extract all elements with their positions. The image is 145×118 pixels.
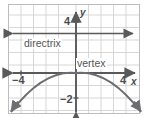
x-tick-label-4: 4 [120,75,126,86]
parabola-graph-figure: 4 y −2 −4 4 x directrix vertex [0,0,145,118]
plot-border [9,5,140,114]
y-tick-label-neg2: −2 [60,94,73,105]
x-axis-name: x [131,77,137,87]
y-tick-label-4: 4 [64,16,70,27]
x-tick-label-neg4: −4 [12,75,25,86]
vertex-label: vertex [76,58,107,69]
directrix-label: directrix [23,38,62,49]
y-axis-name: y [80,8,86,18]
